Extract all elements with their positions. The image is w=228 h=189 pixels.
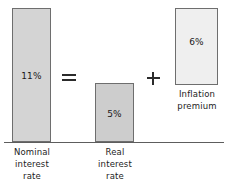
plus-sign-icon (147, 72, 160, 85)
bar-nominal-interest-rate: 11% (12, 8, 51, 142)
interest-rate-equation-chart: 11% 5% 6% Nominal interest rate Real int… (0, 0, 228, 189)
bar-value-inflation: 6% (176, 37, 217, 47)
equals-sign-icon (62, 70, 76, 84)
label-nominal-line2: interest (2, 158, 62, 170)
baseline-axis (4, 142, 224, 143)
label-real-line3: rate (85, 170, 145, 182)
label-inflation-line2: premium (166, 100, 228, 112)
label-nominal-line3: rate (2, 170, 62, 182)
bar-value-real: 5% (96, 109, 133, 119)
bar-real-interest-rate: 5% (95, 83, 134, 142)
label-inflation-premium: Inflation premium (166, 88, 228, 112)
label-nominal-line1: Nominal (2, 146, 62, 158)
label-real-line1: Real (85, 146, 145, 158)
bar-value-nominal: 11% (13, 71, 50, 81)
label-inflation-line1: Inflation (166, 88, 228, 100)
label-real-line2: interest (85, 158, 145, 170)
label-real-interest-rate: Real interest rate (85, 146, 145, 182)
bar-inflation-premium: 6% (175, 8, 218, 85)
label-nominal-interest-rate: Nominal interest rate (2, 146, 62, 182)
